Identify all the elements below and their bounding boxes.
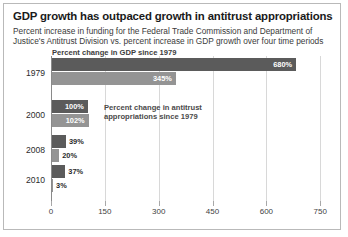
bar-value-label: 39%	[69, 135, 84, 148]
bar	[52, 165, 65, 178]
x-axis-tick-label: 300	[152, 207, 165, 216]
gridline	[213, 56, 214, 201]
x-axis-tick	[159, 201, 160, 206]
bar-value-label: 100%	[65, 100, 84, 113]
plot-area: 1979680%345%2000100%102%200839%20%201037…	[51, 56, 331, 201]
chart-subtitle: Percent increase in funding for the Fede…	[13, 26, 335, 46]
x-axis-tick-label: 600	[260, 207, 273, 216]
bar-value-label: 345%	[153, 72, 172, 85]
x-axis-tick-label: 150	[98, 207, 111, 216]
x-axis-tick-label: 750	[314, 207, 327, 216]
x-axis-tick	[213, 201, 214, 206]
x-axis-tick	[105, 201, 106, 206]
y-axis-category-label: 2008	[26, 145, 45, 155]
bar-value-label: 20%	[62, 149, 77, 162]
x-axis-tick	[320, 201, 321, 206]
x-axis-tick	[266, 201, 267, 206]
bar	[52, 179, 53, 192]
page-title: GDP growth has outpaced growth in antitr…	[13, 10, 333, 22]
chart-card: GDP growth has outpaced growth in antitr…	[3, 3, 341, 230]
annotation-antitrust: Percent change in antitrust appropriatio…	[104, 103, 202, 121]
bar-value-label: 37%	[68, 165, 83, 178]
bar-value-label: 680%	[273, 58, 292, 71]
y-axis-category-label: 1979	[26, 68, 45, 78]
gridline	[320, 56, 321, 201]
gridline	[266, 56, 267, 201]
bar-value-label: 3%	[56, 179, 67, 192]
bar	[52, 149, 59, 162]
y-axis-category-label: 2010	[26, 175, 45, 185]
bar-value-label: 102%	[66, 114, 85, 127]
y-axis-category-label: 2000	[26, 110, 45, 120]
bar	[52, 135, 66, 148]
x-axis-tick	[51, 201, 52, 206]
annotation-gdp: Percent change in GDP since 1979	[52, 48, 176, 57]
bar	[52, 58, 296, 71]
x-axis-tick-label: 0	[49, 207, 53, 216]
x-axis-tick-label: 450	[206, 207, 219, 216]
